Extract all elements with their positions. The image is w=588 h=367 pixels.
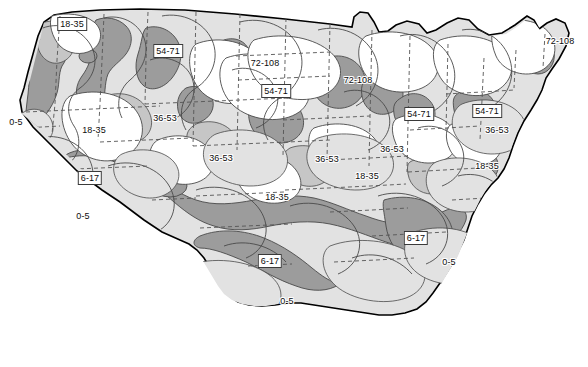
zone-label-upper-midwest: 72-108 <box>343 75 374 86</box>
zone-label-southern-plains: 6-17 <box>258 254 282 268</box>
zone-label-desert-southwest: 0-5 <box>75 211 90 222</box>
zone-label-central-plains-south: 36-53 <box>208 153 234 164</box>
zone-label-northern-rockies: 54-71 <box>153 44 183 58</box>
zone-label-northern-plains: 72-108 <box>250 58 281 69</box>
zone-label-mid-atlantic-north: 36-53 <box>484 125 510 136</box>
zone-label-great-basin: 18-35 <box>81 125 107 136</box>
zone-label-new-england: 54-71 <box>472 104 502 118</box>
zone-label-central-rockies: 36-53 <box>152 113 178 124</box>
map-figure: 18-35 54-71 72-108 54-71 72-108 54-71 72… <box>0 0 588 367</box>
zone-label-california-coast: 0-5 <box>8 117 23 128</box>
zone-label-mid-atlantic: 18-35 <box>474 161 500 172</box>
zone-label-mid-mississippi: 36-53 <box>314 154 340 165</box>
zone-label-deep-south: 0-5 <box>441 257 456 268</box>
zone-label-southern-plains-north: 18-35 <box>264 192 290 203</box>
zone-label-northern-new-england: 72-108 <box>545 36 576 47</box>
zone-label-southwest-interior: 6-17 <box>78 171 102 185</box>
zone-label-pacific-northwest-coast: 18-35 <box>57 17 87 31</box>
zone-label-mid-south: 18-35 <box>354 171 380 182</box>
zone-label-ohio-valley: 36-53 <box>379 144 405 155</box>
zone-label-gulf-coast: 0-5 <box>279 296 294 307</box>
zone-label-great-lakes-east: 54-71 <box>404 107 434 121</box>
zone-label-southeast-interior: 6-17 <box>404 231 428 245</box>
zone-label-central-plains: 54-71 <box>261 84 291 98</box>
